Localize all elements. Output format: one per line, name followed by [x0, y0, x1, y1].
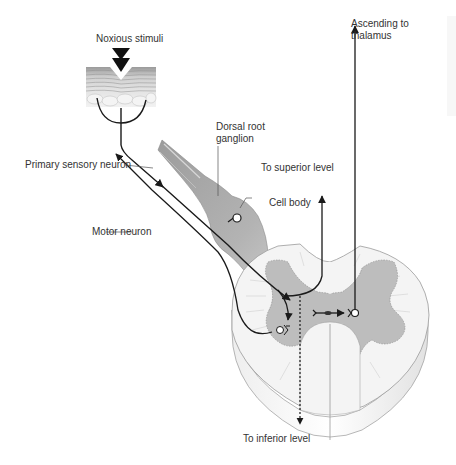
pain-pathway-diagram [0, 0, 456, 465]
interneuron-synapse [352, 310, 359, 317]
label-motor-neuron: Motor neuron [92, 226, 151, 238]
label-cell-body: Cell body [269, 197, 311, 209]
label-to-inferior-level: To inferior level [243, 433, 310, 445]
spinal-cord-cross-section [232, 244, 429, 440]
label-dorsal-root-line2: ganglion [216, 133, 254, 145]
label-ascending-line2: thalamus [351, 30, 392, 42]
motor-neuron-body [277, 327, 284, 334]
label-noxious-stimuli: Noxious stimuli [96, 33, 163, 45]
label-dorsal-root-line1: Dorsal root [216, 121, 265, 133]
label-primary-sensory-neuron: Primary sensory neuron [25, 159, 131, 171]
primary-sensory-axon [121, 108, 163, 187]
label-ascending-line1: Ascending to [351, 18, 409, 30]
cell-body-node [233, 214, 241, 222]
label-to-superior-level: To superior level [261, 162, 334, 174]
